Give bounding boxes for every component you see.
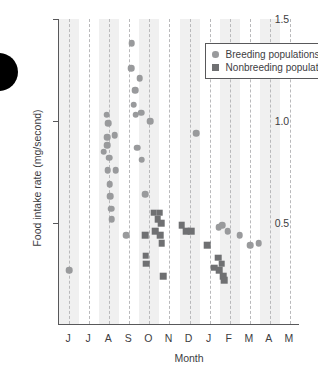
gridline-vertical <box>169 19 170 324</box>
data-point <box>138 110 145 117</box>
x-tick-label: J <box>86 332 91 344</box>
data-point <box>108 205 115 212</box>
data-point <box>236 232 243 239</box>
legend-marker-square-icon <box>212 64 219 71</box>
data-point <box>100 148 107 155</box>
gridline-vertical <box>69 19 70 324</box>
data-point <box>106 154 113 161</box>
gridline-vertical <box>190 19 191 324</box>
plot-area: 0.51.01.5 Breeding populationsNonbreedin… <box>58 19 299 325</box>
x-tick-label: N <box>165 332 173 344</box>
data-point <box>128 65 135 72</box>
data-point <box>123 232 130 239</box>
data-point <box>104 112 111 119</box>
data-point <box>104 134 111 141</box>
data-point <box>159 240 166 247</box>
x-axis-title: Month <box>0 352 318 364</box>
data-point <box>157 232 164 239</box>
data-point <box>147 118 154 125</box>
legend-marker-circle-icon <box>212 51 219 58</box>
x-axis-title-text: Month <box>174 352 203 364</box>
data-point <box>108 216 115 223</box>
y-tick-mark <box>53 223 59 224</box>
y-tick-label: 1.5 <box>275 13 289 25</box>
data-point <box>142 191 149 198</box>
x-tick-label: M <box>285 332 294 344</box>
x-tick-label: M <box>244 332 253 344</box>
data-point <box>221 277 228 284</box>
data-point <box>204 242 211 249</box>
data-point <box>188 228 195 235</box>
data-point <box>112 167 119 174</box>
legend-label: Nonbreeding populations <box>226 62 318 73</box>
data-point <box>142 252 149 259</box>
x-tick-label: F <box>225 332 231 344</box>
data-point <box>66 267 73 274</box>
gridline-vertical <box>149 19 150 324</box>
data-point <box>219 222 226 229</box>
data-point <box>128 40 135 47</box>
panel-label-disc-icon <box>0 53 18 91</box>
legend-label: Breeding populations <box>226 49 318 60</box>
data-point <box>218 261 225 268</box>
legend-item: Breeding populations <box>212 48 318 61</box>
legend-item: Nonbreeding populations <box>212 61 318 74</box>
data-point <box>104 167 111 174</box>
data-point <box>160 273 167 280</box>
data-point <box>247 242 254 249</box>
data-point <box>112 132 119 139</box>
gridline-vertical <box>89 19 90 324</box>
data-point <box>157 210 164 217</box>
x-tick-label: J <box>65 332 70 344</box>
data-point <box>193 130 200 137</box>
data-point <box>106 181 113 188</box>
y-tick-label: 1.0 <box>275 115 289 127</box>
data-point <box>130 101 137 108</box>
data-point <box>138 156 145 163</box>
data-point <box>158 220 165 227</box>
data-point <box>132 87 139 94</box>
x-tick-label: A <box>105 332 112 344</box>
data-point <box>136 75 143 82</box>
x-tick-label: J <box>206 332 211 344</box>
data-point <box>104 142 111 149</box>
x-tick-label: S <box>125 332 132 344</box>
data-point <box>256 240 263 247</box>
x-tick-label: O <box>144 332 152 344</box>
data-point <box>142 232 149 239</box>
data-point <box>107 193 114 200</box>
figure-scatter-plot: Food intake rate (mg/second) 0.51.01.5 B… <box>0 0 318 379</box>
x-tick-label: A <box>265 332 272 344</box>
data-point <box>224 228 231 235</box>
y-tick-mark <box>53 121 59 122</box>
data-point <box>134 144 141 151</box>
legend: Breeding populationsNonbreeding populati… <box>205 43 318 79</box>
x-tick-label: D <box>185 332 193 344</box>
data-point <box>143 261 150 268</box>
data-point <box>105 120 112 127</box>
y-tick-mark <box>53 19 59 20</box>
y-tick-label: 0.5 <box>275 217 289 229</box>
y-axis-title: Food intake rate (mg/second) <box>31 58 43 298</box>
